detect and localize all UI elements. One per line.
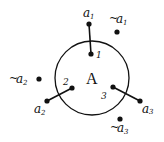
diagram-svg: A 1 a 1 ~ a 1 2 a 2 ~ a 2 3 a 3 ~ a 3 [0,0,164,142]
point-3 [110,84,115,89]
point-3-label: 3 [101,91,107,101]
circle-A-label: A [86,70,98,87]
label-a2-sub: 2 [40,109,46,117]
point-1-label: 1 [96,50,102,60]
point-not-a1 [114,29,119,34]
label-not-a3: ~ a 3 [110,121,129,136]
label-not-a2: ~ a 2 [9,72,28,87]
label-a1: a 1 [83,6,94,21]
point-1 [88,51,93,56]
label-not-a3-sub: 3 [124,128,129,136]
diagram-canvas: A 1 a 1 ~ a 1 2 a 2 ~ a 2 3 a 3 ~ a 3 [0,0,164,142]
point-2 [69,85,74,90]
connector-2-line [47,88,72,101]
label-a1-sub: 1 [90,13,94,21]
connector-3-line [113,87,140,101]
point-not-a2 [36,76,41,81]
label-not-a1: ~ a 1 [109,12,127,27]
label-a2: a 2 [34,102,46,117]
label-not-a1-sub: 1 [123,19,127,27]
label-a3-sub: 3 [149,108,154,116]
connector-1-line [89,24,91,54]
point-a1 [86,21,91,26]
label-not-a2-sub: 2 [22,79,28,87]
point-a2 [44,98,49,103]
point-2-label: 2 [62,77,69,87]
label-a3: a 3 [142,102,154,116]
